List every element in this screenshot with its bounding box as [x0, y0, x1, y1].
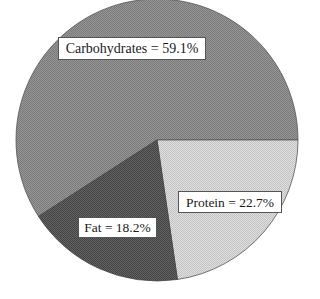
fat-label: Fat = 18.2%: [78, 217, 157, 238]
protein-label: Protein = 22.7%: [178, 191, 282, 213]
carbohydrates-label: Carbohydrates = 59.1%: [58, 37, 206, 60]
